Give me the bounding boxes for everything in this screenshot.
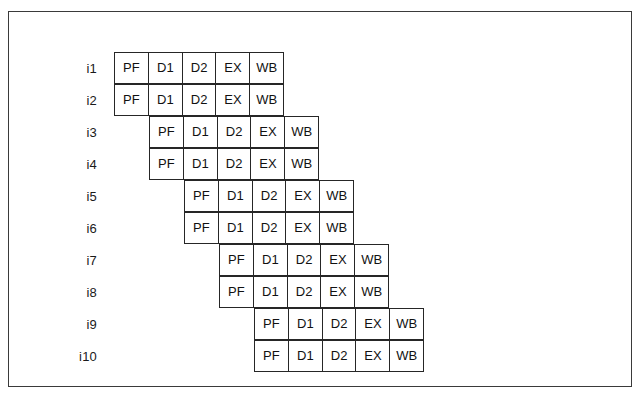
pipeline-row: PFD1D2EXWB — [114, 53, 284, 85]
stage-cell-d2: D2 — [252, 180, 287, 212]
stage-cell-d1: D1 — [288, 340, 323, 372]
pipeline-row: PFD1D2EXWB — [219, 277, 389, 309]
stage-cell-d2: D2 — [182, 52, 217, 84]
stage-cell-pf: PF — [114, 84, 149, 116]
pipeline-row: PFD1D2EXWB — [184, 181, 354, 213]
stage-cell-d1: D1 — [148, 52, 183, 84]
row-label-i8: i8 — [37, 277, 97, 309]
row-label-i3: i3 — [37, 117, 97, 149]
stage-cell-ex: EX — [215, 84, 250, 116]
stage-cell-ex: EX — [215, 52, 250, 84]
stage-cell-pf: PF — [184, 180, 219, 212]
stage-cell-d1: D1 — [218, 212, 253, 244]
stage-cell-pf: PF — [149, 148, 184, 180]
stage-cell-d2: D2 — [252, 212, 287, 244]
stage-cell-pf: PF — [254, 308, 289, 340]
stage-cell-d1: D1 — [288, 308, 323, 340]
stage-cell-d1: D1 — [253, 276, 288, 308]
pipeline-row: PFD1D2EXWB — [184, 213, 354, 245]
stage-cell-wb: WB — [249, 52, 284, 84]
stage-cell-d2: D2 — [217, 148, 252, 180]
stage-cell-ex: EX — [320, 276, 355, 308]
stage-cell-d2: D2 — [287, 244, 322, 276]
stage-cell-ex: EX — [285, 212, 320, 244]
stage-cell-d1: D1 — [183, 148, 218, 180]
stage-cell-ex: EX — [285, 180, 320, 212]
stage-cell-d1: D1 — [148, 84, 183, 116]
stage-cell-d2: D2 — [182, 84, 217, 116]
pipeline-row: PFD1D2EXWB — [149, 149, 319, 181]
figure-frame: i1PFD1D2EXWBi2PFD1D2EXWBi3PFD1D2EXWBi4PF… — [8, 11, 632, 387]
stage-cell-pf: PF — [184, 212, 219, 244]
pipeline-row: PFD1D2EXWB — [254, 309, 424, 341]
row-label-i1: i1 — [37, 53, 97, 85]
pipeline-row: PFD1D2EXWB — [114, 85, 284, 117]
row-label-i4: i4 — [37, 149, 97, 181]
row-label-i6: i6 — [37, 213, 97, 245]
row-label-i10: i10 — [37, 341, 97, 373]
stage-cell-d2: D2 — [322, 308, 357, 340]
stage-cell-ex: EX — [250, 116, 285, 148]
pipeline-diagram: i1PFD1D2EXWBi2PFD1D2EXWBi3PFD1D2EXWBi4PF… — [9, 12, 631, 386]
stage-cell-d1: D1 — [218, 180, 253, 212]
row-label-i7: i7 — [37, 245, 97, 277]
stage-cell-wb: WB — [389, 340, 424, 372]
pipeline-row: PFD1D2EXWB — [219, 245, 389, 277]
stage-cell-wb: WB — [354, 276, 389, 308]
stage-cell-wb: WB — [389, 308, 424, 340]
row-label-i5: i5 — [37, 181, 97, 213]
stage-cell-d2: D2 — [287, 276, 322, 308]
stage-cell-wb: WB — [319, 212, 354, 244]
stage-cell-d1: D1 — [183, 116, 218, 148]
stage-cell-wb: WB — [354, 244, 389, 276]
stage-cell-d2: D2 — [217, 116, 252, 148]
row-label-i9: i9 — [37, 309, 97, 341]
stage-cell-ex: EX — [355, 340, 390, 372]
stage-cell-pf: PF — [114, 52, 149, 84]
row-label-i2: i2 — [37, 85, 97, 117]
stage-cell-ex: EX — [320, 244, 355, 276]
stage-cell-pf: PF — [149, 116, 184, 148]
stage-cell-wb: WB — [284, 148, 319, 180]
stage-cell-pf: PF — [219, 244, 254, 276]
stage-cell-ex: EX — [250, 148, 285, 180]
stage-cell-wb: WB — [284, 116, 319, 148]
stage-cell-ex: EX — [355, 308, 390, 340]
pipeline-row: PFD1D2EXWB — [149, 117, 319, 149]
stage-cell-wb: WB — [249, 84, 284, 116]
stage-cell-pf: PF — [254, 340, 289, 372]
stage-cell-wb: WB — [319, 180, 354, 212]
stage-cell-d2: D2 — [322, 340, 357, 372]
pipeline-row: PFD1D2EXWB — [254, 341, 424, 373]
stage-cell-d1: D1 — [253, 244, 288, 276]
stage-cell-pf: PF — [219, 276, 254, 308]
